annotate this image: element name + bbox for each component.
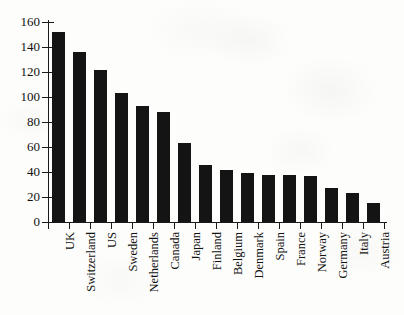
- x-axis-category-label: France: [295, 232, 308, 266]
- x-axis-category-label: Switzerland: [85, 232, 98, 292]
- x-axis-category-label: Canada: [169, 232, 182, 269]
- x-axis-category-label: US: [106, 232, 119, 248]
- x-axis-category-label: Italy: [358, 232, 371, 255]
- x-axis-category-label: Germany: [337, 232, 350, 279]
- bar-chart-figure: 020406080100120140160 UKSwitzerlandUSSwe…: [0, 0, 404, 315]
- x-axis-category-label: Sweden: [127, 232, 140, 272]
- x-axis-category-label: Japan: [190, 232, 203, 260]
- x-axis-category-label: Netherlands: [148, 232, 161, 292]
- x-axis-category-label: UK: [64, 232, 77, 250]
- x-axis-category-label: Belgium: [232, 232, 245, 275]
- x-axis-category-labels: UKSwitzerlandUSSwedenNetherlandsCanadaJa…: [0, 0, 404, 315]
- x-axis-category-label: Norway: [316, 232, 329, 272]
- x-axis-category-label: Spain: [274, 232, 287, 260]
- x-axis-category-label: Finland: [211, 232, 224, 270]
- x-axis-category-label: Denmark: [253, 232, 266, 279]
- x-axis-category-label: Austria: [379, 232, 392, 269]
